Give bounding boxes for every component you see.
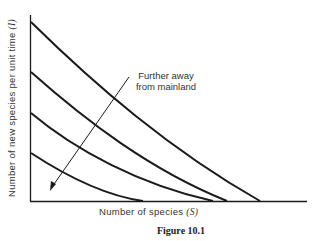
- curve-3: [31, 113, 213, 201]
- x-axis-label: Number of species (S): [99, 206, 198, 217]
- annotation-line-2: from mainland: [130, 81, 202, 92]
- direction-arrow: [52, 77, 129, 187]
- annotation-line-1: Further away: [130, 70, 202, 81]
- figure-10-1: Number of new species per unit time (I) …: [0, 0, 332, 241]
- annotation: Further away from mainland: [130, 70, 202, 92]
- y-axis-symbol: (I): [7, 19, 17, 29]
- y-axis-label-text: Number of new species per unit time: [6, 29, 17, 197]
- y-axis-label: Number of new species per unit time (I): [6, 19, 17, 197]
- curve-4: [31, 153, 143, 201]
- x-axis-symbol: (S): [186, 207, 198, 217]
- x-axis-label-text: Number of species: [99, 206, 186, 217]
- figure-caption: Figure 10.1: [0, 225, 332, 236]
- chart-canvas: [0, 0, 332, 241]
